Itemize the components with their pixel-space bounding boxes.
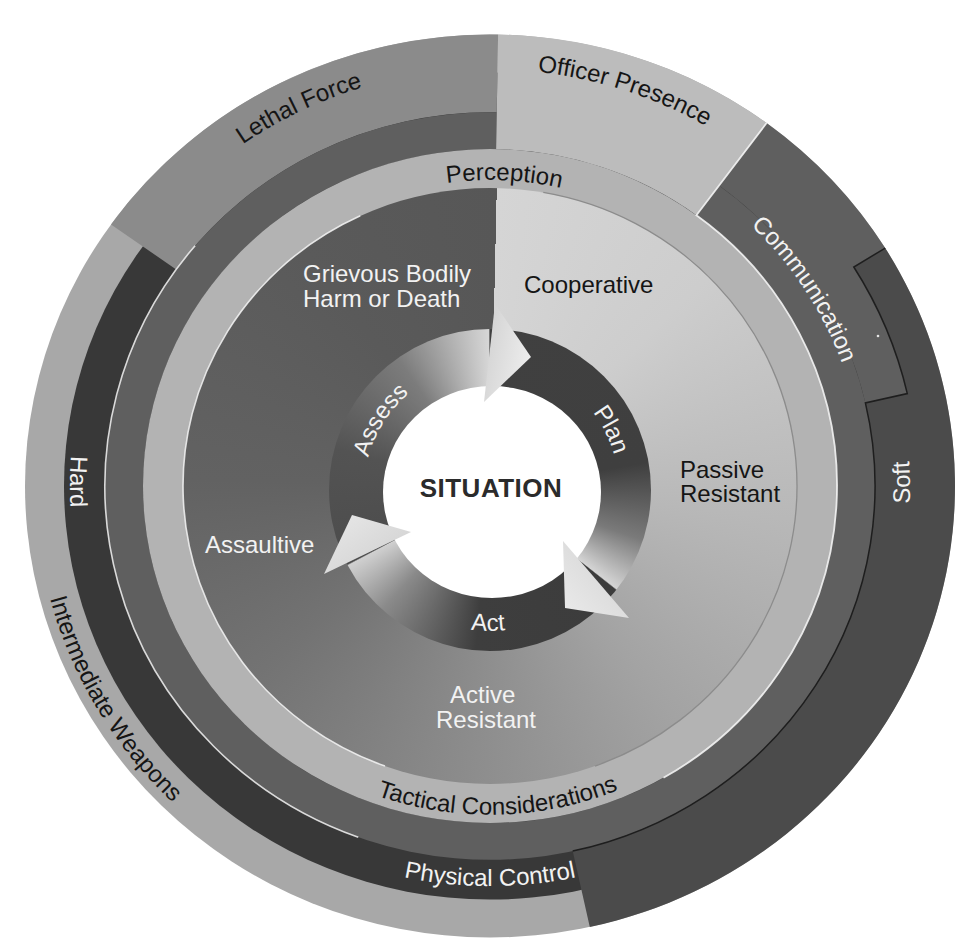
communication-label: Communication [747, 210, 862, 365]
soft-band-edge [573, 248, 908, 851]
tactical-considerations-label: Tactical Considerations [375, 769, 620, 819]
active-line-1: Active [450, 681, 515, 708]
assaultive-label: Assaultive [205, 531, 314, 558]
active-resistant-label: Active Resistant [436, 681, 536, 733]
communication-dot [877, 335, 880, 338]
passive-resistant-label: Passive Resistant [680, 456, 780, 507]
separator-line-communication [664, 123, 838, 778]
plan-label: Plan [589, 400, 635, 457]
officer-presence-label: Officer Presence [537, 50, 717, 130]
physical-control-label: Physical Control [403, 856, 577, 891]
hard-label: Hard [65, 455, 93, 508]
soft-label: Soft [887, 460, 915, 503]
perception-label: Perception [444, 158, 565, 193]
situation-label: SITUATION [420, 473, 563, 503]
active-line-2: Resistant [436, 706, 536, 733]
grievous-line-2: Harm or Death [303, 285, 460, 312]
labels-layer: Lethal Force Officer Presence Communicat… [0, 0, 972, 943]
passive-line-1: Passive [680, 456, 764, 483]
cooperative-label: Cooperative [524, 271, 653, 298]
passive-line-2: Resistant [680, 480, 780, 507]
act-label: Act [470, 608, 506, 636]
lethal-force-label: Lethal Force [231, 66, 365, 148]
grievous-bodily-harm-label: Grievous Bodily Harm or Death [303, 260, 478, 312]
use-of-force-model-diagram: Lethal Force Officer Presence Communicat… [0, 0, 972, 943]
intermediate-weapons-label: Intermediate Weapons [45, 592, 188, 806]
grievous-line-1: Grievous Bodily [303, 260, 471, 287]
